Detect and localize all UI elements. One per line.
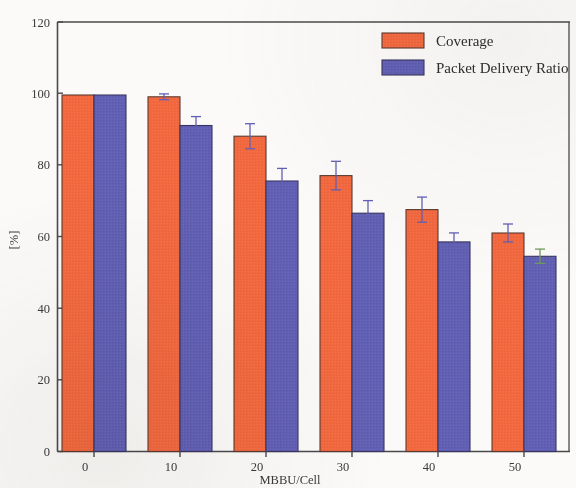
bar-coverage-1[interactable] bbox=[148, 97, 180, 452]
y-axis-title: [%] bbox=[7, 231, 21, 250]
y-tick-label-1: 20 bbox=[38, 373, 51, 387]
bar-coverage-0[interactable] bbox=[62, 95, 94, 452]
bar-pdr-2[interactable] bbox=[266, 181, 298, 452]
y-tick-label-5: 100 bbox=[31, 87, 50, 101]
y-tick-group-2: 40 bbox=[38, 302, 64, 316]
y-tick-group-3: 60 bbox=[38, 230, 64, 244]
bar-coverage-2[interactable] bbox=[234, 136, 266, 451]
bar-group-1 bbox=[148, 94, 212, 452]
bar-pdr-5[interactable] bbox=[524, 256, 556, 451]
bar-chart: 0 20 40 60 80 100 bbox=[0, 0, 576, 488]
y-tick-label-0: 0 bbox=[44, 445, 50, 459]
x-tick-label-0: 0 bbox=[82, 460, 88, 474]
x-tick-label-4: 40 bbox=[423, 460, 436, 474]
bar-coverage-4[interactable] bbox=[406, 210, 438, 452]
legend-entry-coverage[interactable]: Coverage bbox=[382, 33, 494, 49]
bar-group-5 bbox=[492, 224, 556, 452]
y-tick-group-0: 0 bbox=[44, 445, 63, 459]
legend-swatch-packet-delivery-ratio bbox=[382, 60, 424, 75]
x-tick-label-5: 50 bbox=[509, 460, 522, 474]
y-tick-label-6: 120 bbox=[31, 16, 50, 30]
bar-group-0 bbox=[62, 95, 126, 452]
chart-canvas: 0 20 40 60 80 100 bbox=[0, 0, 576, 488]
legend: Coverage Packet Delivery Ratio bbox=[382, 33, 568, 76]
legend-label-packet-delivery-ratio: Packet Delivery Ratio bbox=[436, 60, 568, 76]
legend-entry-packet-delivery-ratio[interactable]: Packet Delivery Ratio bbox=[382, 60, 568, 76]
legend-label-coverage: Coverage bbox=[436, 33, 494, 49]
bar-coverage-3[interactable] bbox=[320, 176, 352, 452]
x-axis-title: MBBU/Cell bbox=[259, 473, 321, 487]
bar-coverage-5[interactable] bbox=[492, 233, 524, 452]
bar-pdr-1[interactable] bbox=[180, 126, 212, 452]
bar-pdr-0[interactable] bbox=[94, 95, 126, 452]
x-tick-label-3: 30 bbox=[337, 460, 350, 474]
x-tick-group-0: 0 bbox=[82, 452, 94, 475]
x-tick-group-1: 10 bbox=[165, 452, 180, 475]
bar-pdr-4[interactable] bbox=[438, 242, 470, 452]
x-tick-group-4: 40 bbox=[423, 452, 438, 475]
bar-group-3 bbox=[320, 161, 384, 451]
y-tick-label-4: 80 bbox=[38, 158, 51, 172]
y-tick-label-3: 60 bbox=[38, 230, 51, 244]
x-tick-label-2: 20 bbox=[251, 460, 264, 474]
x-tick-label-1: 10 bbox=[165, 460, 178, 474]
bar-group-2 bbox=[234, 124, 298, 452]
legend-swatch-coverage bbox=[382, 33, 424, 48]
y-tick-group-4: 80 bbox=[38, 158, 64, 172]
x-axis: 0 10 20 30 40 50 MBBU/Cell bbox=[82, 452, 524, 488]
y-tick-label-2: 40 bbox=[38, 302, 51, 316]
x-tick-group-3: 30 bbox=[337, 452, 352, 475]
x-tick-group-2: 20 bbox=[251, 452, 266, 475]
bar-group-4 bbox=[406, 197, 470, 451]
y-tick-group-1: 20 bbox=[38, 373, 64, 387]
bar-pdr-3[interactable] bbox=[352, 213, 384, 451]
y-axis: 0 20 40 60 80 100 bbox=[7, 16, 63, 459]
x-tick-group-5: 50 bbox=[509, 452, 524, 475]
